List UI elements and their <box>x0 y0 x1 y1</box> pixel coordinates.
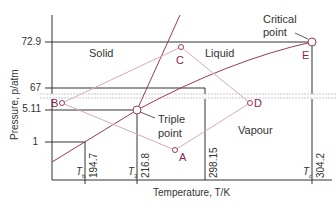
point-c-marker <box>179 45 184 50</box>
t3-symbol: T3 <box>128 167 137 179</box>
region-solid: Solid <box>89 48 113 59</box>
region-vapour: Vapour <box>238 125 273 136</box>
critical-label-line1: Critical <box>263 14 297 25</box>
critical-point-marker <box>308 38 316 46</box>
triple-point-marker <box>133 106 141 114</box>
point-c-label: C <box>176 55 184 66</box>
point-d-label: D <box>254 98 262 109</box>
tb-symbol: Tb <box>76 167 85 179</box>
critical-label-line2: point <box>263 27 287 38</box>
ytick-72-9: 72.9 <box>1 37 41 47</box>
triple-label-line2: point <box>158 128 182 139</box>
x-axis-label: Temperature, T/K <box>153 188 230 198</box>
ytick-5-11: 5.11 <box>1 104 41 114</box>
triple-label-line1: Triple <box>158 114 185 125</box>
xtick-216-8: 216.8 <box>141 153 151 178</box>
point-d-marker <box>248 101 253 106</box>
xtick-298-15: 298.15 <box>209 147 219 178</box>
tc-symbol: Tc <box>303 167 312 179</box>
ytick-67: 67 <box>1 83 41 93</box>
xtick-304-2: 304.2 <box>316 153 326 178</box>
point-b-label: B <box>51 98 58 109</box>
point-e-label: E <box>302 50 309 61</box>
point-b-marker <box>60 101 65 106</box>
xtick-194-7: 194.7 <box>89 153 99 178</box>
critical-leader <box>295 33 308 39</box>
point-a-marker <box>173 148 178 153</box>
y-axis-label: Pressure, p/atm <box>10 69 20 140</box>
region-liquid: Liquid <box>205 48 234 59</box>
point-a-label: A <box>179 152 186 163</box>
triple-leader <box>140 112 155 118</box>
